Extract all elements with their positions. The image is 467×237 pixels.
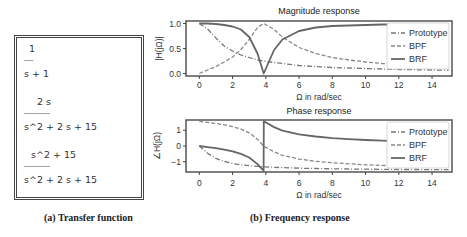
x-tick-label: 0: [197, 178, 202, 188]
y-tick-label: −1: [171, 157, 181, 167]
x-tick-label: 4: [263, 178, 268, 188]
x-tick-label: 8: [330, 178, 335, 188]
x-tick-label: 8: [330, 80, 335, 90]
x-tick-label: 6: [297, 178, 302, 188]
x-tick-label: 6: [297, 80, 302, 90]
x-tick-label: 14: [427, 178, 437, 188]
x-axis-label: Ω in rad/sec: [296, 190, 342, 200]
x-tick-label: 10: [361, 80, 371, 90]
x-tick-label: 2: [230, 80, 235, 90]
legend-item: Prototype: [409, 127, 448, 137]
chart-title: Phase response: [286, 106, 351, 116]
x-tick-label: 14: [427, 80, 437, 90]
y-tick-label: 0.5: [169, 44, 181, 54]
x-axis-label: Ω in rad/sec: [296, 92, 342, 102]
y-tick-label: 1.0: [169, 19, 181, 29]
legend-item: BRF: [409, 153, 428, 163]
legend-item: BPF: [409, 41, 427, 51]
x-tick-label: 12: [394, 178, 404, 188]
frequency-response-charts: Magnitude response024681012140.00.51.0Ω …: [0, 0, 467, 237]
y-axis-label: |H(jΩ)|: [154, 36, 164, 60]
x-tick-label: 2: [230, 178, 235, 188]
x-tick-label: 10: [361, 178, 371, 188]
x-tick-label: 4: [263, 80, 268, 90]
y-axis-label: ∠H(jΩ): [152, 132, 162, 160]
legend-item: BRF: [409, 54, 428, 64]
chart-title: Magnitude response: [278, 6, 360, 16]
y-tick-label: 1: [176, 125, 181, 135]
y-tick-label: 0.0: [169, 69, 181, 79]
y-tick-label: 0: [176, 141, 181, 151]
legend-item: Prototype: [409, 28, 448, 38]
x-tick-label: 0: [197, 80, 202, 90]
x-tick-label: 12: [394, 80, 404, 90]
legend-item: BPF: [409, 140, 427, 150]
